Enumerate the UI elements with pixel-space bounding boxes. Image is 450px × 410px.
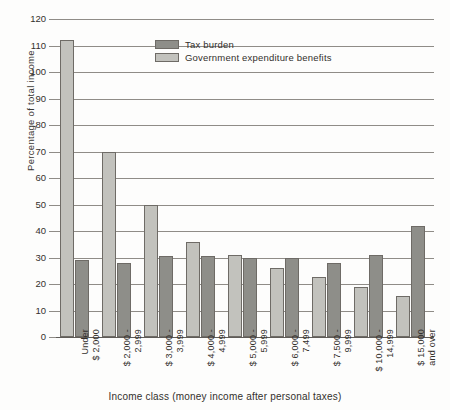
bar-benefits [186,242,200,337]
x-axis-tick-label: $ 5,000 - 5,999 [248,329,269,389]
bar-group [60,19,90,337]
x-axis-tick-label: $ 7,500 - 9,999 [332,329,353,389]
y-axis-tick-label: 50 [35,200,46,210]
bar-benefits [102,152,116,338]
bar-burden [369,255,383,337]
legend-item: Government expenditure benefits [155,51,332,64]
x-axis-tick-label: $ 6,000 - 7,499 [290,329,311,389]
y-axis-tick-label: 120 [30,14,46,24]
legend-label: Government expenditure benefits [185,51,332,64]
bar-benefits [144,205,158,338]
x-axis-tick-label: $ 3,000 - 3,999 [164,329,185,389]
bars-layer [56,19,434,337]
y-axis-tick-label: 30 [35,253,46,263]
y-axis-tick [49,152,56,153]
y-axis-tick [49,125,56,126]
bar-benefits [312,277,326,337]
legend-item: Tax burden [155,38,332,51]
x-axis-tick-label: $ 10,000 - 14,999 [374,329,395,389]
y-axis-tick [49,284,56,285]
legend-label: Tax burden [185,38,234,51]
x-axis-tick-label: $ 2,000 - 2,999 [122,329,143,389]
y-axis-tick [49,46,56,47]
bar-group [144,19,174,337]
bar-group [396,19,426,337]
y-axis-tick-label: 100 [30,67,46,77]
y-axis-tick [49,337,56,338]
y-axis-tick-label: 20 [35,279,46,289]
bar-burden [243,258,257,338]
x-axis-tick-label: Under $ 2,000 [80,329,101,389]
y-axis-tick-label: 80 [35,120,46,130]
bar-chart: Percentage of total income 1201101009080… [0,0,450,410]
bar-group [228,19,258,337]
y-axis-tick [49,205,56,206]
legend-swatch-benefits [155,53,179,62]
x-axis-tick-label: $ 4,000 - 4,999 [206,329,227,389]
bar-burden [75,260,89,337]
x-axis-tick-labels: Under $ 2,000$ 2,000 - 2,999$ 3,000 - 3,… [56,341,434,389]
y-axis-tick [49,72,56,73]
y-axis-tick-label: 70 [35,147,46,157]
y-axis-tick-label: 110 [31,41,46,51]
x-axis-tick-label: $ 15,000 and over [416,329,437,389]
bar-group [354,19,384,337]
bar-burden [159,256,173,337]
y-axis-tick [49,311,56,312]
bar-group [270,19,300,337]
bar-burden [201,256,215,337]
bar-burden [411,226,425,337]
bar-benefits [396,296,410,337]
y-axis-tick-label: 40 [35,226,46,236]
y-axis-tick-label: 60 [35,173,46,183]
bar-benefits [270,268,284,337]
bar-group [312,19,342,337]
plot-area: 1201101009080706050403020100 [56,19,434,337]
legend-swatch-burden [155,40,179,49]
bar-burden [327,263,341,337]
bar-burden [285,258,299,338]
y-axis-tick-label: 0 [41,332,46,342]
bar-group [186,19,216,337]
y-axis-tick [49,19,56,20]
bar-group [102,19,132,337]
y-axis-tick-label: 10 [35,306,46,316]
y-axis-tick [49,99,56,100]
bar-benefits [60,40,74,337]
y-axis-tick [49,178,56,179]
x-axis-title: Income class (money income after persona… [0,391,450,402]
bar-burden [117,263,131,337]
y-axis-tick [49,258,56,259]
y-axis-tick [49,231,56,232]
chart-legend: Tax burdenGovernment expenditure benefit… [155,38,332,64]
bar-benefits [228,255,242,337]
y-axis-tick-label: 90 [35,94,46,104]
bar-benefits [354,287,368,337]
